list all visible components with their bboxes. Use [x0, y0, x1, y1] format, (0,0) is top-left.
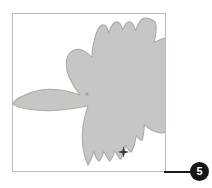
figure-plate: 5	[0, 0, 212, 188]
center-dot-marker	[85, 92, 88, 95]
callout-badge-5[interactable]: 5	[190, 162, 209, 181]
silhouette-canvas	[13, 14, 165, 171]
raptor-in-flight-silhouette	[13, 18, 165, 165]
figure-frame	[12, 13, 166, 172]
